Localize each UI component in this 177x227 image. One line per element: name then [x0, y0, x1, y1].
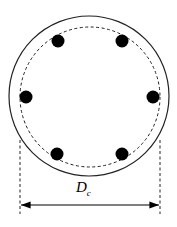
column-section-diagram: Dc	[0, 0, 177, 227]
bar	[116, 35, 129, 48]
outer-circle	[9, 16, 169, 176]
dimension-subscript: c	[87, 188, 91, 198]
bar	[116, 148, 129, 161]
bar	[52, 35, 65, 48]
dimension-symbol: D	[76, 179, 87, 195]
core-circle-dashed	[20, 27, 160, 167]
dimension-label: Dc	[76, 179, 91, 198]
reinforcing-bars	[20, 35, 160, 161]
bar	[51, 148, 64, 161]
bar	[20, 91, 33, 104]
bar	[147, 91, 160, 104]
